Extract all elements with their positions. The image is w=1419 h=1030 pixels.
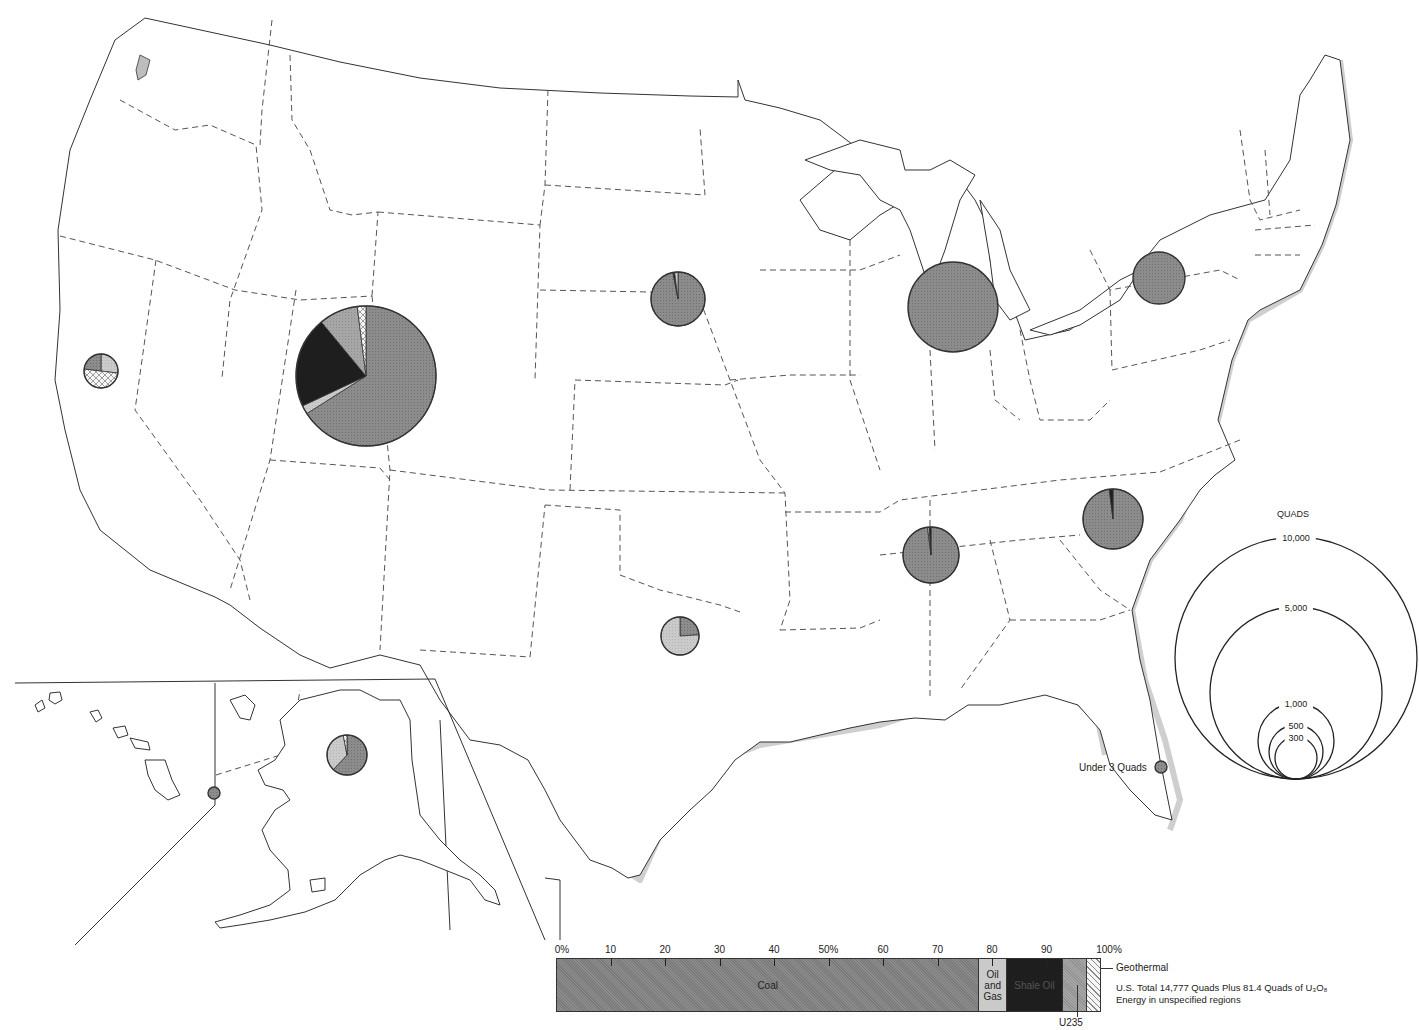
hawaii-islands (35, 692, 180, 800)
legend-circle (1210, 607, 1382, 779)
segment-coal: Coal (557, 959, 978, 1011)
legend-circle-label: 1,000 (1285, 699, 1308, 709)
geothermal-leader-line (1101, 968, 1113, 969)
segment-coal-label: Coal (757, 980, 778, 991)
segment-shale-oil: Shale Oil (1006, 959, 1062, 1011)
bar-tick-mark (774, 958, 775, 966)
alaska-island-2 (230, 695, 255, 720)
bar-tick-label: 10 (605, 944, 616, 955)
total-note: U.S. Total 14,777 Quads Plus 81.4 Quads … (1116, 982, 1327, 1006)
bar-tick-mark (611, 958, 612, 966)
bar-tick-mark (992, 958, 993, 966)
region-pie (908, 262, 998, 352)
bar-tick-label: 70 (932, 944, 943, 955)
bar-tick-mark (1047, 958, 1048, 966)
bar-tick-mark (938, 958, 939, 966)
bar-tick-label: 0% (555, 944, 569, 955)
alaska-outline (215, 690, 500, 928)
legend-circle-label: 500 (1288, 721, 1303, 731)
legend-circle-label: 10,000 (1282, 533, 1310, 543)
region-pie (661, 617, 699, 655)
region-pie (327, 735, 367, 775)
bar-tick-label: 50% (818, 944, 838, 955)
bar-tick-mark (829, 958, 830, 966)
region-pie (1133, 252, 1185, 304)
segment-u235 (1062, 959, 1086, 1011)
stacked-bar: Coal Oil and Gas Shale Oil (556, 958, 1101, 1012)
energy-resource-map: Under 3 Quads QUADS 10,0005,0001,0005003… (0, 0, 1419, 1030)
region-pie (651, 272, 705, 326)
region-pie (1155, 761, 1167, 773)
region-pie (903, 527, 959, 583)
bar-tick-label: 40 (768, 944, 779, 955)
bar-tick-label: 30 (714, 944, 725, 955)
geothermal-label: Geothermal (1116, 962, 1168, 973)
legend-title: QUADS (1277, 509, 1309, 519)
segment-geothermal (1086, 959, 1100, 1011)
under-quads-label: Under 3 Quads (1079, 762, 1147, 773)
legend-circle-label: 5,000 (1285, 603, 1308, 613)
u235-leader-line (1077, 985, 1078, 1017)
energy-share-bar-chart: 0%1020304050%60708090100% Coal Oil and G… (556, 940, 1116, 1030)
segment-oil-gas-label: Oil and Gas (984, 969, 1002, 1002)
legend-circle-label: 300 (1288, 733, 1303, 743)
contiguous-us-outline (55, 18, 1350, 878)
region-pie (1083, 489, 1143, 549)
bar-tick-mark (665, 958, 666, 966)
alaska-island (310, 878, 325, 892)
bar-tick-label: 60 (877, 944, 888, 955)
total-note-line-2: Energy in unspecified regions (1116, 994, 1327, 1006)
bar-tick-label: 90 (1041, 944, 1052, 955)
bar-tick-mark (720, 958, 721, 966)
total-note-line-1: U.S. Total 14,777 Quads Plus 81.4 Quads … (1116, 982, 1327, 994)
u235-label: U235 (1059, 1017, 1083, 1028)
legend-circle (1275, 737, 1317, 779)
segment-shale-oil-label: Shale Oil (1014, 980, 1055, 991)
bar-tick-label: 20 (659, 944, 670, 955)
bar-tick-label: 80 (986, 944, 997, 955)
quads-scale-legend: QUADS 10,0005,0001,000500300 (1175, 509, 1417, 779)
region-pie (208, 787, 220, 799)
bar-axis-ticks: 0%1020304050%60708090100% (556, 940, 1101, 958)
region-pie (296, 306, 436, 446)
region-pie (84, 354, 118, 388)
bar-tick-mark (883, 958, 884, 966)
bar-tick-label: 100% (1096, 944, 1122, 955)
segment-oil-and-gas: Oil and Gas (978, 959, 1006, 1011)
